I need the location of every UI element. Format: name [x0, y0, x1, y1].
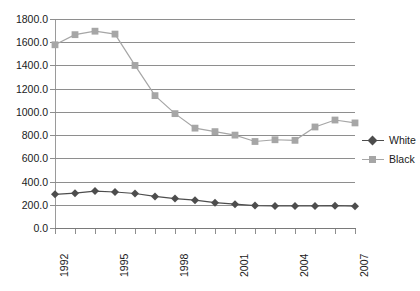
data-point-marker — [172, 110, 179, 117]
legend-label: White — [389, 135, 416, 146]
legend-marker-diamond-icon — [368, 136, 378, 146]
x-axis-tick — [195, 229, 196, 234]
series-white — [51, 187, 359, 210]
data-point-marker — [351, 202, 359, 210]
x-axis-tick — [295, 229, 296, 234]
y-axis-label: 1800.0 — [0, 14, 48, 25]
data-point-marker — [272, 136, 279, 143]
legend-key-icon — [362, 135, 384, 146]
data-point-marker — [192, 125, 199, 132]
y-axis-label: 1400.0 — [0, 60, 48, 71]
x-axis-tick — [175, 229, 176, 234]
data-point-marker — [92, 28, 99, 35]
x-axis-label: 2001 — [239, 254, 250, 277]
y-axis-label: 200.0 — [0, 200, 48, 211]
legend-item-white[interactable]: White — [362, 131, 420, 150]
x-axis-tick — [235, 229, 236, 234]
x-axis-label: 1998 — [179, 254, 190, 277]
legend-label: Black — [389, 154, 415, 165]
series-line — [55, 191, 355, 206]
y-axis-label: 600.0 — [0, 153, 48, 164]
x-axis: 199219951998200120042007 — [55, 229, 356, 291]
x-axis-label: 1995 — [119, 254, 130, 277]
data-point-marker — [252, 138, 259, 145]
data-point-marker — [211, 199, 219, 207]
x-axis-label: 1992 — [59, 254, 70, 277]
x-axis-label: 2007 — [359, 254, 370, 277]
x-axis-label: 2004 — [299, 254, 310, 277]
y-axis-label: 1000.0 — [0, 107, 48, 118]
y-axis-label: 1200.0 — [0, 84, 48, 95]
data-point-marker — [51, 190, 59, 198]
x-axis-tick — [135, 229, 136, 234]
data-point-marker — [52, 41, 59, 48]
data-point-marker — [271, 202, 279, 210]
data-point-marker — [71, 189, 79, 197]
x-axis-tick — [155, 229, 156, 234]
data-point-marker — [171, 195, 179, 203]
x-axis-tick — [55, 229, 56, 234]
y-axis-label: 400.0 — [0, 177, 48, 188]
x-axis-tick — [275, 229, 276, 234]
data-point-marker — [132, 62, 139, 69]
y-axis-label: 1600.0 — [0, 37, 48, 48]
data-point-marker — [291, 202, 299, 210]
data-point-marker — [131, 190, 139, 198]
y-axis-label: 800.0 — [0, 130, 48, 141]
data-point-marker — [231, 200, 239, 208]
data-point-marker — [91, 187, 99, 195]
legend-item-black[interactable]: Black — [362, 150, 420, 169]
legend-key-icon — [362, 154, 384, 165]
data-point-marker — [112, 31, 119, 38]
x-axis-tick — [315, 229, 316, 234]
data-point-marker — [191, 196, 199, 204]
line-chart: 0.0200.0400.0600.0800.01000.01200.01400.… — [0, 0, 420, 291]
data-point-marker — [331, 202, 339, 210]
plot-area — [55, 19, 355, 228]
x-axis-tick — [355, 229, 356, 234]
data-point-marker — [292, 137, 299, 144]
data-point-marker — [332, 117, 339, 124]
data-point-marker — [212, 128, 219, 135]
x-axis-tick — [215, 229, 216, 234]
series-black — [52, 28, 359, 145]
data-point-marker — [111, 188, 119, 196]
legend-marker-square-icon — [369, 156, 376, 163]
data-point-marker — [352, 120, 359, 127]
x-axis-tick — [255, 229, 256, 234]
data-point-marker — [72, 31, 79, 38]
data-point-marker — [311, 202, 319, 210]
x-axis-tick — [75, 229, 76, 234]
x-axis-tick — [95, 229, 96, 234]
data-point-marker — [151, 192, 159, 200]
data-point-marker — [251, 202, 259, 210]
x-axis-tick — [335, 229, 336, 234]
data-point-marker — [232, 132, 239, 139]
data-point-marker — [312, 124, 319, 131]
series-line — [55, 31, 355, 141]
x-axis-tick — [115, 229, 116, 234]
chart-legend: WhiteBlack — [362, 131, 420, 169]
series-layer — [55, 19, 355, 228]
y-axis-label: 0.0 — [0, 223, 48, 234]
data-point-marker — [152, 92, 159, 99]
